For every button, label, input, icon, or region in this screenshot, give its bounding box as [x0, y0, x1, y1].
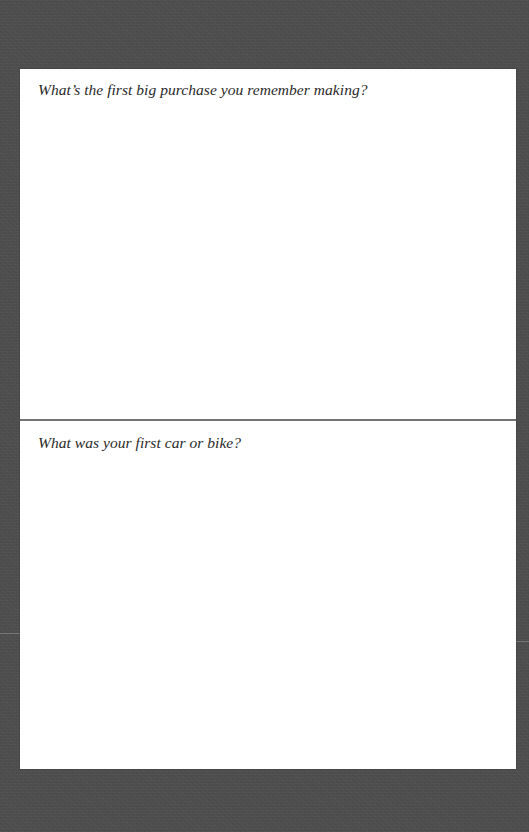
prompt-panel-first-purchase: What’s the first big purchase you rememb… [20, 69, 516, 419]
answer-area-first-purchase[interactable] [38, 109, 498, 405]
answer-area-first-car[interactable] [38, 461, 498, 755]
prompt-panel-first-car: What was your first car or bike? [20, 421, 516, 769]
scan-artifact-line [516, 641, 529, 642]
scan-artifact-line [0, 633, 20, 634]
journal-page: What’s the first big purchase you rememb… [20, 69, 516, 769]
prompt-question: What was your first car or bike? [38, 434, 241, 452]
prompt-question: What’s the first big purchase you rememb… [38, 81, 368, 99]
